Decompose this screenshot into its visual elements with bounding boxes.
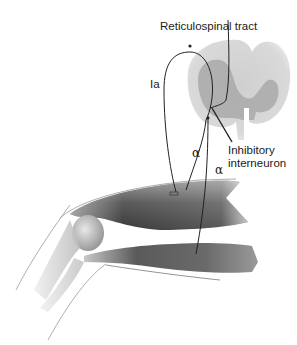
- label-alpha-motor-1: α: [192, 147, 200, 161]
- label-alpha-motor-2: α: [215, 164, 223, 178]
- spinal-cord-section: [188, 40, 291, 140]
- label-inhibitory-interneuron-2: interneuron: [228, 157, 286, 170]
- synapse-marker: [207, 117, 210, 120]
- label-ia-afferent: Ia: [150, 78, 160, 91]
- diagram-canvas: [0, 0, 297, 345]
- flexor-muscle: [84, 243, 258, 280]
- label-inhibitory-interneuron-1: Inhibitory: [228, 144, 275, 157]
- knee-joint: [16, 205, 106, 340]
- central-canal: [244, 108, 249, 140]
- label-reticulospinal-tract: Reticulospinal tract: [160, 20, 257, 33]
- dorsal-root-ganglion-marker: [188, 44, 191, 47]
- reflex-circuit-diagram: Reticulospinal tract Ia α α Inhibitory i…: [0, 0, 297, 345]
